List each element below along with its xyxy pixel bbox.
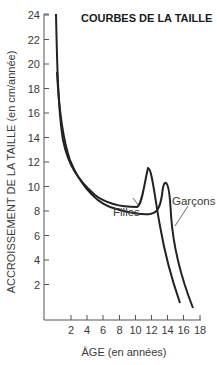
- x-axis-title: ÂGE (en années): [82, 346, 167, 358]
- x-tick-label: 10: [129, 324, 141, 336]
- y-tick-label: 24: [28, 9, 40, 21]
- y-tick-label: 2: [34, 279, 40, 291]
- y-tick-labels: 24 22 20 18 16 14 12 10 8 6 4 2: [28, 9, 40, 291]
- y-tick-label: 4: [34, 254, 40, 266]
- x-tick-label: 4: [84, 324, 90, 336]
- series-garcons-line: [57, 72, 193, 308]
- x-tick-labels: 2 4 6 8 10 12 14 16 18: [68, 324, 206, 336]
- y-tick-label: 18: [28, 83, 40, 95]
- x-tick-label: 2: [68, 324, 74, 336]
- garcons-leader-line: [175, 206, 188, 226]
- filles-leader-line: [133, 198, 139, 206]
- x-tick-label: 16: [177, 324, 189, 336]
- y-tick-label: 22: [28, 34, 40, 46]
- x-ticks: [71, 315, 200, 320]
- x-tick-label: 8: [116, 324, 122, 336]
- x-tick-label: 12: [145, 324, 157, 336]
- y-tick-label: 6: [34, 230, 40, 242]
- y-tick-label: 10: [28, 181, 40, 193]
- y-tick-label: 20: [28, 58, 40, 70]
- chart-title: COURBES DE LA TAILLE: [81, 12, 212, 24]
- x-tick-label: 14: [161, 324, 173, 336]
- x-tick-label: 6: [100, 324, 106, 336]
- x-tick-label: 18: [194, 324, 206, 336]
- y-tick-label: 16: [28, 107, 40, 119]
- series-label-garcons: Garçons: [172, 195, 216, 207]
- y-ticks: [44, 15, 49, 285]
- y-tick-label: 14: [28, 132, 40, 144]
- series-filles-line: [56, 14, 180, 303]
- series-label-filles: Filles: [113, 206, 140, 218]
- growth-chart: 24 22 20 18 16 14 12 10 8 6 4 2 2 4 6 8 …: [0, 0, 217, 365]
- y-tick-label: 8: [34, 205, 40, 217]
- y-axis-title: ACCROISSEMENT DE LA TAILLE (en cm/année): [5, 51, 17, 294]
- y-tick-label: 12: [28, 156, 40, 168]
